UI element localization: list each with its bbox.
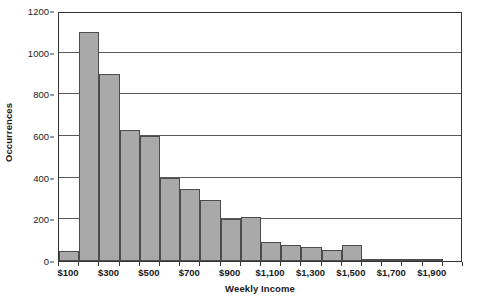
y-axis-title-label: Occurrences: [4, 103, 15, 162]
histogram-bar: [120, 130, 140, 261]
x-tick-label: $700: [179, 268, 200, 278]
histogram-bar: [362, 259, 382, 261]
histogram-bar: [79, 32, 99, 261]
y-tick-label: 200: [33, 216, 49, 226]
x-tick-mark: [199, 262, 200, 266]
histogram-bar: [140, 136, 160, 261]
x-tick-label: $1,900: [417, 268, 446, 278]
x-tick-mark: [98, 262, 99, 266]
y-tick-label: 600: [33, 132, 49, 142]
histogram-bar: [382, 259, 402, 262]
x-axis-title: Weekly Income: [58, 283, 462, 294]
x-tick-mark: [119, 262, 120, 266]
x-tick-mark: [381, 262, 382, 266]
histogram-chart: Occurrences 020040060080010001200 $100$3…: [0, 0, 477, 304]
histogram-bar: [423, 259, 443, 262]
x-tick-mark: [321, 262, 322, 266]
y-tick-mark: [50, 53, 54, 54]
histogram-bar: [59, 251, 79, 261]
y-axis-title: Occurrences: [0, 0, 18, 265]
histogram-bar: [180, 189, 200, 261]
x-tick-mark: [139, 262, 140, 266]
y-tick-mark: [50, 178, 54, 179]
x-tick-mark: [280, 262, 281, 266]
histogram-bar: [221, 219, 241, 261]
x-tick-mark: [58, 262, 59, 266]
y-tick-mark: [50, 137, 54, 138]
x-tick-mark: [260, 262, 261, 266]
y-tick-label: 1000: [28, 49, 49, 59]
y-tick-mark: [50, 95, 54, 96]
histogram-bar: [281, 245, 301, 261]
x-tick-mark: [401, 262, 402, 266]
x-tick-mark: [78, 262, 79, 266]
x-tick-label: $1,700: [377, 268, 406, 278]
bars-layer: [59, 13, 461, 261]
x-tick-mark: [300, 262, 301, 266]
x-tick-label: $1,500: [336, 268, 365, 278]
y-tick-mark: [50, 262, 54, 263]
x-tick-label: $1,300: [296, 268, 325, 278]
x-tick-label: $900: [219, 268, 240, 278]
histogram-bar: [200, 200, 220, 261]
histogram-bar: [99, 74, 119, 262]
histogram-bar: [241, 217, 261, 261]
x-tick-mark: [361, 262, 362, 266]
x-tick-label: $300: [98, 268, 119, 278]
y-tick-mark: [50, 220, 54, 221]
x-tick-mark: [422, 262, 423, 266]
x-tick-mark: [179, 262, 180, 266]
y-tick-mark: [50, 12, 54, 13]
plot-area: [58, 12, 462, 262]
histogram-bar: [402, 259, 422, 261]
histogram-bar: [322, 250, 342, 261]
y-tick-label: 1200: [28, 7, 49, 17]
y-tick-label: 400: [33, 174, 49, 184]
histogram-bar: [160, 178, 180, 261]
x-tick-mark: [240, 262, 241, 266]
y-tick-label: 0: [44, 257, 49, 267]
x-tick-label: $100: [58, 268, 79, 278]
y-tick-label: 800: [33, 91, 49, 101]
x-tick-mark: [220, 262, 221, 266]
x-tick-mark: [341, 262, 342, 266]
x-tick-label: $500: [138, 268, 159, 278]
x-tick-mark: [442, 262, 443, 266]
y-axis-tick-labels: 020040060080010001200: [18, 0, 54, 265]
x-tick-label: $1,100: [256, 268, 285, 278]
x-tick-mark: [462, 262, 463, 266]
x-tick-mark: [159, 262, 160, 266]
histogram-bar: [342, 245, 362, 261]
histogram-bar: [301, 247, 321, 261]
histogram-bar: [261, 242, 281, 261]
